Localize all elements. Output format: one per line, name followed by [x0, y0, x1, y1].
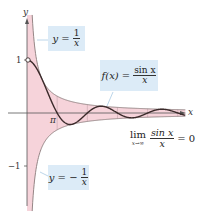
lower-label-connector	[40, 172, 48, 176]
y-tick-label-1: 1	[16, 56, 21, 65]
function-label-box: f(x) = sin x x	[100, 60, 158, 91]
upper-label-fraction: 1 x	[73, 29, 81, 49]
graph-canvas	[0, 0, 200, 214]
y-axis-label: y	[23, 8, 28, 17]
function-label-denominator: x	[142, 76, 147, 85]
upper-label-denominator: x	[74, 39, 79, 48]
lower-label-lhs: y = −	[49, 172, 78, 183]
lower-label-fraction: 1 x	[81, 168, 89, 188]
y-tick-label-neg1: −1	[8, 162, 21, 171]
limit-subscript: x→∞	[132, 141, 144, 147]
x-tick-label-pi: π	[50, 116, 56, 125]
limit-word: lim	[130, 130, 146, 140]
function-label-fraction: sin x x	[133, 66, 156, 86]
x-axis-label: x	[188, 108, 193, 117]
lower-label-denominator: x	[82, 178, 87, 187]
function-label-lhs: f(x) =	[102, 70, 131, 81]
limit-denominator: x	[159, 139, 164, 149]
open-point-at-0-1	[26, 58, 30, 62]
limit-statement: lim x→∞ sin x x = 0	[130, 128, 195, 149]
function-label-connector	[107, 92, 113, 106]
limit-operator: lim x→∞	[130, 130, 146, 147]
upper-envelope-label-box: y = 1 x	[48, 26, 85, 51]
limit-rhs: = 0	[177, 133, 195, 144]
limit-fraction: sin x x	[150, 128, 174, 149]
lower-envelope-label-box: y = − 1 x	[48, 165, 89, 190]
upper-label-lhs: y =	[53, 33, 70, 44]
